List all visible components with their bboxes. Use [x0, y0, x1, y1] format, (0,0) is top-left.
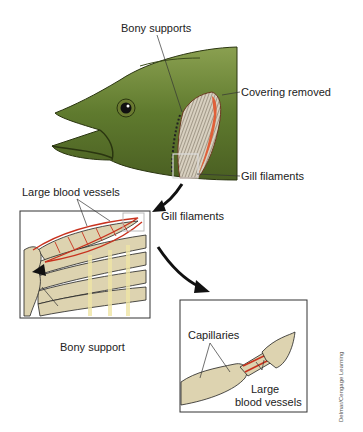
label-large-blood-vessels: Large blood vessels [22, 186, 120, 199]
arrow-to-filament [158, 247, 200, 287]
credit-text: Delmar/Cengage Learning [338, 352, 344, 422]
label-gill-filaments-mid: Gill filaments [161, 210, 224, 223]
label-large-1: Large [251, 383, 279, 396]
label-gill-filaments-top: Gill filaments [241, 170, 304, 183]
fish-head [52, 47, 237, 180]
label-covering-removed: Covering removed [241, 86, 331, 99]
label-bony-supports: Bony supports [121, 22, 191, 35]
label-bony-support: Bony support [60, 341, 125, 354]
gill-arch-detail-panel [20, 199, 150, 318]
label-capillaries: Capillaries [188, 329, 239, 342]
label-large-2: blood vessels [235, 396, 302, 409]
